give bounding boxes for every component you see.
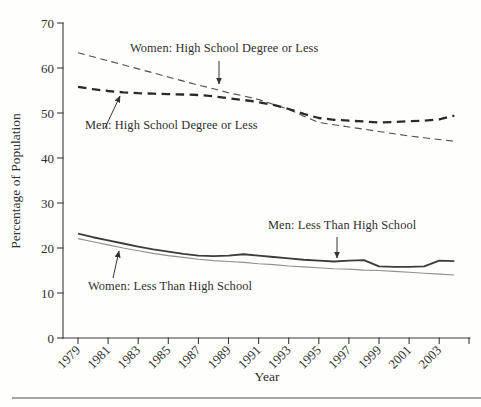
x-tick-label: 1985 [144,343,173,372]
x-tick-label: 1981 [84,343,113,372]
x-tick-label: 1987 [175,342,204,371]
x-tick-label: 1983 [114,343,143,372]
y-tick-label: 40 [41,151,54,166]
x-tick-label: 2003 [415,343,444,372]
x-tick-label: 1993 [265,343,294,372]
x-tick-label: 1995 [295,343,324,372]
women-lths-annotation-arrow [113,251,119,278]
men-hs-annotation-label: Men: High School Degree or Less [85,118,258,133]
x-tick-label: 1999 [355,343,384,372]
y-axis-title: Percentage of Population [8,113,23,249]
y-tick-label: 70 [41,16,54,31]
chart-figure: 0102030405060701979198119831985198719891… [0,0,481,407]
men-lths-annotation-label: Men: Less Than High School [268,218,416,233]
plot-canvas: 0102030405060701979198119831985198719891… [0,0,481,407]
y-tick-label: 60 [41,61,54,76]
y-tick-label: 30 [41,196,54,211]
y-tick-label: 0 [48,331,55,346]
y-tick-label: 50 [41,106,54,121]
x-axis-title: Year [255,369,280,384]
women-lths-annotation-label: Women: Less Than High School [88,279,252,294]
women-hs-annotation-label: Women: High School Degree or Less [130,41,318,56]
y-tick-label: 20 [41,241,54,256]
y-tick-label: 10 [41,286,54,301]
x-tick-label: 1979 [54,343,83,372]
x-tick-label: 1989 [205,343,234,372]
x-tick-label: 1997 [325,342,354,371]
x-tick-label: 1991 [235,343,264,372]
x-tick-label: 2001 [385,343,414,372]
